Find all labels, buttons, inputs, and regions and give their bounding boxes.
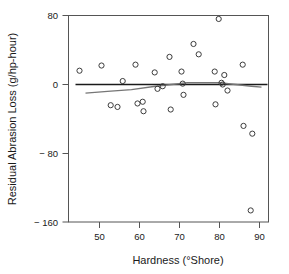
data-point-marker — [225, 88, 230, 93]
data-point-marker — [167, 54, 172, 59]
x-tick-label-60: 60 — [134, 231, 145, 242]
data-point-marker — [222, 72, 227, 77]
data-point-marker — [140, 99, 145, 104]
x-tick-label-90: 90 — [254, 231, 265, 242]
data-point-marker — [196, 52, 201, 57]
y-tick-label-neg80: − 80 — [39, 148, 58, 159]
y-tick-label-0: 0 — [53, 79, 58, 90]
data-point-marker — [179, 69, 184, 74]
y-tick-label-neg160: − 160 — [34, 217, 58, 228]
plot-border — [69, 16, 269, 223]
plot-canvas: 80 0 − 80 − 160 50 60 70 80 90 Hardness … — [0, 0, 289, 274]
x-axis-ticks — [100, 222, 260, 228]
x-axis-label: Hardness (°Shore) — [132, 254, 223, 266]
x-tick-labels: 50 60 70 80 90 — [94, 231, 265, 242]
data-point-marker — [115, 104, 120, 109]
data-point-marker — [120, 78, 125, 83]
data-point-marker — [141, 109, 146, 114]
data-point-marker — [213, 102, 218, 107]
data-point-marker — [152, 70, 157, 75]
data-points-group — [77, 16, 255, 213]
data-point-marker — [155, 86, 160, 91]
y-tick-labels: 80 0 − 80 − 160 — [34, 10, 58, 228]
data-point-marker — [181, 92, 186, 97]
data-point-marker — [216, 16, 221, 21]
y-axis-label: Residual Abrasion Loss (g/hp-hour) — [6, 33, 18, 205]
data-point-marker — [135, 101, 140, 106]
data-point-marker — [191, 41, 196, 46]
data-point-marker — [212, 69, 217, 74]
data-point-marker — [133, 62, 138, 67]
data-point-marker — [250, 131, 255, 136]
x-tick-label-70: 70 — [174, 231, 185, 242]
x-tick-label-50: 50 — [94, 231, 105, 242]
data-point-marker — [108, 103, 113, 108]
y-tick-label-80: 80 — [47, 10, 58, 21]
data-point-marker — [240, 62, 245, 67]
data-point-marker — [241, 123, 246, 128]
plot-frame — [69, 16, 269, 223]
x-tick-label-80: 80 — [214, 231, 225, 242]
data-point-marker — [248, 208, 253, 213]
data-point-marker — [77, 68, 82, 73]
y-axis-ticks — [63, 16, 69, 223]
scatter-plot-figure: 80 0 − 80 − 160 50 60 70 80 90 Hardness … — [0, 0, 289, 274]
data-point-marker — [168, 107, 173, 112]
data-point-marker — [99, 63, 104, 68]
